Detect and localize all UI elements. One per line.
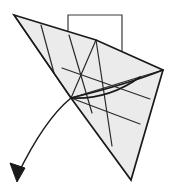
figure-container: Folded surface with directional fold arr… — [0, 0, 174, 193]
folded-surface-diagram: Folded surface with directional fold arr… — [0, 0, 174, 193]
